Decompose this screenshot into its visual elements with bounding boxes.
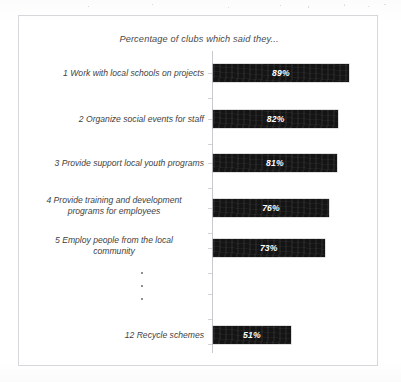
axis-tick xyxy=(208,144,212,145)
bar-row-label: 1 Work with local schools on projects xyxy=(24,68,204,79)
bar-row: 4 Provide training and development progr… xyxy=(19,199,379,217)
bar-row-label-line: 12 Recycle schemes xyxy=(125,330,204,340)
bar-value-label: 73% xyxy=(213,239,325,257)
bar-row-label-line: programs for employees xyxy=(68,206,161,216)
bar-value-label: 82% xyxy=(213,110,338,128)
ellipsis-dot xyxy=(141,298,143,300)
bar: 81% xyxy=(213,154,337,172)
bar-row: 3 Provide support local youth programs 8… xyxy=(19,154,379,172)
bar-row-label: 12 Recycle schemes xyxy=(24,330,204,341)
bar: 89% xyxy=(213,64,349,82)
bar-row-label-line: 1 Work with local schools on projects xyxy=(63,68,204,78)
bar-row-label: 3 Provide support local youth programs xyxy=(24,158,204,169)
bar: 51% xyxy=(213,326,291,344)
axis-tick xyxy=(208,233,212,234)
ellipsis-dot xyxy=(141,272,143,274)
axis-tick xyxy=(208,98,212,99)
axis-tick xyxy=(208,273,212,274)
bar-row: 5 Employ people from the local community… xyxy=(19,239,379,257)
bar: 73% xyxy=(213,239,325,257)
axis-tick xyxy=(208,294,212,295)
bar-row-label: 5 Employ people from the local community xyxy=(24,235,204,256)
bar-row-label-line: 2 Organize social events for staff xyxy=(79,114,204,124)
bar: 82% xyxy=(213,110,338,128)
bar-row: 1 Work with local schools on projects 89… xyxy=(19,64,379,82)
scan-noise-band xyxy=(0,0,401,12)
bar-value-label: 81% xyxy=(213,154,337,172)
bar-row: 12 Recycle schemes 51% xyxy=(19,326,379,344)
axis-tick xyxy=(208,319,212,320)
bar-row-label: 2 Organize social events for staff xyxy=(24,114,204,125)
bar-value-label: 89% xyxy=(213,64,349,82)
bar-row-label-line: community xyxy=(93,246,135,256)
bar-value-label: 51% xyxy=(213,326,291,344)
bar-row-label-line: 3 Provide support local youth programs xyxy=(54,158,204,168)
bar-value-label: 76% xyxy=(213,199,329,217)
bar-row: 2 Organize social events for staff 82% xyxy=(19,110,379,128)
bar-row-label-line: 4 Provide training and development xyxy=(46,195,181,205)
axis-tick xyxy=(208,188,212,189)
bar-row-label-line: 5 Employ people from the local xyxy=(55,235,173,245)
bar: 76% xyxy=(213,199,329,217)
ellipsis-dot xyxy=(141,285,143,287)
chart-figure-frame: Percentage of clubs which said they... 1… xyxy=(18,15,378,366)
chart-title: Percentage of clubs which said they... xyxy=(19,34,379,44)
vertical-ellipsis-truncation-marker xyxy=(135,272,149,300)
axis-tick xyxy=(208,344,212,345)
bar-row-label: 4 Provide training and development progr… xyxy=(24,195,204,216)
